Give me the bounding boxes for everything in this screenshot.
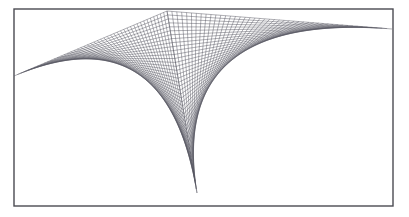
line-envelope-artwork [0, 0, 409, 217]
figure-canvas [0, 0, 409, 217]
